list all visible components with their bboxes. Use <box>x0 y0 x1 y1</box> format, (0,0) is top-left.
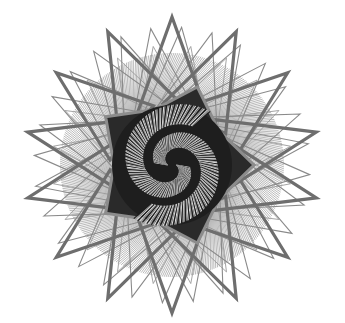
rosette-artwork <box>0 0 345 323</box>
center-swirl <box>112 104 232 226</box>
